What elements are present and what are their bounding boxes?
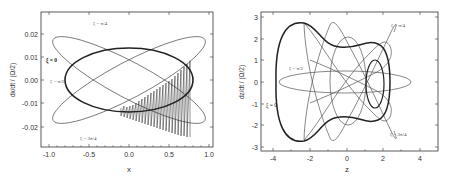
left-plot: -1.0 -0.5 0.0 0.5 1.0 0.02 0.01 0.00 -0.…	[9, 12, 214, 174]
curve-xi-pi4	[304, 23, 396, 141]
y-tick-label: -2	[252, 122, 258, 129]
right-x-ticks	[273, 12, 420, 151]
y-tick-label: 1	[254, 57, 258, 64]
label-xi-pi4: ξ = π/4	[391, 23, 405, 28]
curve-xi-0	[276, 23, 390, 142]
x-tick-label: -2	[307, 155, 313, 162]
y-tick-label: 3	[254, 14, 258, 21]
y-tick-label: 0.01	[24, 54, 38, 61]
y-tick-label: 0	[254, 79, 258, 86]
left-y-tick-labels: 0.02 0.01 0.00 -0.01 -0.02	[22, 31, 38, 131]
right-y-tick-labels: 3 2 1 0 -1 -2 -3	[252, 14, 258, 151]
x-tick-label: -0.5	[83, 151, 95, 158]
right-x-axis-label: z	[345, 165, 349, 174]
label-xi-pi2: ξ = π/2	[289, 66, 303, 71]
y-tick-label: -0.01	[22, 100, 38, 107]
left-curves	[45, 24, 214, 137]
label-xi-pi4: ξ = π/4	[93, 21, 107, 26]
x-tick-label: 1.0	[204, 151, 214, 158]
x-tick-label: -4	[270, 155, 276, 162]
figure: -1.0 -0.5 0.0 0.5 1.0 0.02 0.01 0.00 -0.…	[0, 0, 449, 182]
curve-xi-pi2	[279, 71, 411, 93]
label-xi-0: ξ = 0	[46, 57, 57, 65]
curve-inner-ellipse	[330, 37, 366, 125]
y-tick-label: 0.00	[24, 77, 38, 84]
right-y-ticks	[261, 17, 438, 147]
right-plot: -4 -2 0 2 4 3 2 1 0 -1 -2 -3 z dz/dt / (…	[238, 12, 438, 174]
x-tick-label: -1.0	[43, 151, 55, 158]
label-xi-pi2: ξ = π/2	[50, 79, 64, 84]
y-tick-label: -0.02	[22, 124, 38, 131]
y-tick-label: -1	[252, 101, 258, 108]
x-tick-label: 0.5	[164, 151, 174, 158]
x-tick-label: 2	[381, 155, 385, 162]
right-y-axis-label: dz/dt / (Ω/2)	[238, 65, 246, 99]
curve-xi-3pi4	[304, 22, 396, 140]
y-tick-label: 2	[254, 36, 258, 43]
right-plot-frame	[261, 12, 438, 151]
left-y-axis-label: dx/dt / (Ω/2)	[9, 63, 17, 97]
y-tick-label: -3	[252, 144, 258, 151]
y-tick-label: 0.02	[24, 31, 38, 38]
label-xi-0: ξ = 0	[266, 102, 277, 109]
left-x-axis-label: x	[127, 165, 131, 174]
curve-xi-pi4	[45, 24, 214, 137]
label-xi-3pi4: ξ = 3π/4	[390, 132, 407, 137]
left-x-tick-labels: -1.0 -0.5 0.0 0.5 1.0	[43, 151, 214, 158]
label-xi-3pi4: ξ = 3π/4	[80, 136, 97, 141]
curve-xi-3pi4	[45, 24, 214, 137]
left-x-ticks	[49, 12, 209, 147]
x-tick-label: 0.0	[124, 151, 134, 158]
right-curves	[276, 22, 411, 141]
x-tick-label: 0	[345, 155, 349, 162]
right-x-tick-labels: -4 -2 0 2 4	[270, 155, 422, 162]
x-tick-label: 4	[418, 155, 422, 162]
